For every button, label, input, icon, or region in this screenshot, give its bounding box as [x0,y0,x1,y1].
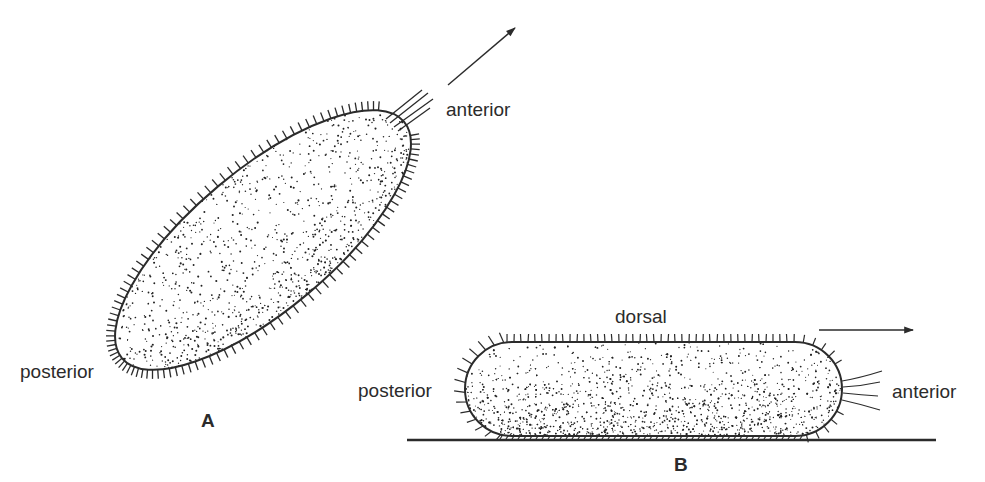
panel-a-anterior-cilia-tuft [386,90,433,131]
panel-a-swimming-cell [77,28,515,412]
panel-a-posterior-label: posterior [20,362,94,381]
panel-a-letter: A [201,411,215,430]
panel-b-dorsal-label: dorsal [615,307,667,326]
panel-a-cilia [106,101,420,379]
panel-b-posterior-label: posterior [358,381,432,400]
panel-a-motion-arrow [448,28,515,85]
panel-b-anterior-label: anterior [892,382,956,401]
panel-b-stippling [464,342,842,437]
panel-b-letter: B [674,455,688,474]
panel-a-anterior-label: anterior [446,100,510,119]
panel-a-cell-outline [77,68,449,412]
panel-b-anterior-cilia-tuft [842,371,882,410]
panel-b-crawling-cell [407,330,936,442]
panel-b-cilia [454,333,843,443]
ciliate-locomotion-figure [0,0,985,482]
